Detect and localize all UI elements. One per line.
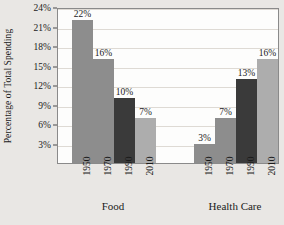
bar <box>114 98 135 163</box>
y-axis-tick-label: 15% <box>34 62 51 72</box>
x-axis-tick-label: 1950 <box>82 157 92 176</box>
x-axis-tick-label: 2010 <box>267 157 277 176</box>
bar-value-label: 16% <box>259 48 276 58</box>
x-axis-tick-label: 1970 <box>103 157 113 176</box>
y-axis-tick-label: 3% <box>38 140 51 150</box>
bar-value-label: 13% <box>238 68 255 78</box>
y-axis-tick-labels: 3%6%9%12%15%18%21%24% <box>16 0 54 172</box>
y-axis-tick-mark <box>53 125 57 126</box>
bar-value-label: 7% <box>219 107 232 117</box>
x-axis-tick-label: 1970 <box>225 157 235 176</box>
bar <box>72 20 93 163</box>
x-axis-tick-labels: 19501970199020101950197019902010 <box>57 166 279 198</box>
group-label: Food <box>102 200 125 212</box>
plot-area: 22%16%10%7%3%7%13%16% <box>57 8 279 164</box>
bar-value-label: 7% <box>139 107 152 117</box>
x-axis-tick-label: 1990 <box>124 157 134 176</box>
x-axis-tick-label: 2010 <box>145 157 155 176</box>
y-axis-tick-label: 18% <box>34 42 51 52</box>
y-axis-tick-mark <box>53 66 57 67</box>
y-axis-tick-mark <box>53 27 57 28</box>
y-axis-tick-label: 6% <box>38 120 51 130</box>
y-axis-title-text: Percentage of Total Spending <box>3 29 13 144</box>
bar <box>236 79 257 164</box>
y-axis-tick-mark <box>53 47 57 48</box>
x-axis-tick-label: 1990 <box>246 157 256 176</box>
y-axis-tick-mark <box>53 86 57 87</box>
x-axis-tick-label: 1950 <box>204 157 214 176</box>
bars-layer: 22%16%10%7%3%7%13%16% <box>58 9 278 163</box>
y-axis-title: Percentage of Total Spending <box>0 0 16 172</box>
bar-chart: Percentage of Total Spending 3%6%9%12%15… <box>0 0 284 225</box>
bar <box>93 59 114 163</box>
y-axis-tick-label: 9% <box>38 101 51 111</box>
y-axis-tick-label: 24% <box>34 3 51 13</box>
bar-value-label: 22% <box>74 9 91 19</box>
bar <box>257 59 278 163</box>
y-axis-tick-label: 12% <box>34 81 51 91</box>
y-axis-tick-label: 21% <box>34 23 51 33</box>
y-axis-tick-mark <box>53 105 57 106</box>
bar-value-label: 3% <box>198 133 211 143</box>
y-axis-tick-mark <box>53 8 57 9</box>
group-labels: FoodHealth Care <box>57 200 279 220</box>
bar-value-label: 10% <box>116 87 133 97</box>
bar-value-label: 16% <box>95 48 112 58</box>
group-label: Health Care <box>209 200 262 212</box>
y-axis-tick-mark <box>53 144 57 145</box>
